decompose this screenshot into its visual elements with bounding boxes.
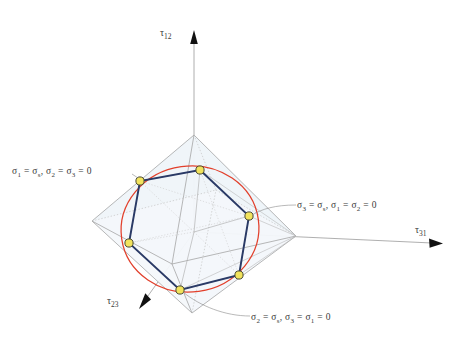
axis-tau12-arrowhead <box>190 30 198 44</box>
vertex-marker <box>136 177 144 185</box>
vertex-marker <box>245 212 253 220</box>
annotation-sigma1: σ1 = σs, σ2 = σ3 = 0 <box>12 166 92 179</box>
annotation-sigma2: σ2 = σs, σ3 = σ1 = 0 <box>251 312 331 325</box>
vertex-marker <box>196 166 204 174</box>
axis-label-tau12: τ12 <box>160 27 172 41</box>
axis-label-tau23: τ23 <box>107 295 119 309</box>
axis-tau31-arrowhead <box>429 239 443 248</box>
axis-label-tau31: τ31 <box>415 224 427 238</box>
vertex-marker <box>235 271 243 279</box>
annotation-sigma3: σ3 = σs, σ1 = σ2 = 0 <box>297 200 377 213</box>
vertex-marker <box>176 286 184 294</box>
vertex-marker <box>125 239 133 247</box>
leader-sigma1 <box>132 174 138 178</box>
axis-tau23-arrowhead <box>139 293 151 309</box>
